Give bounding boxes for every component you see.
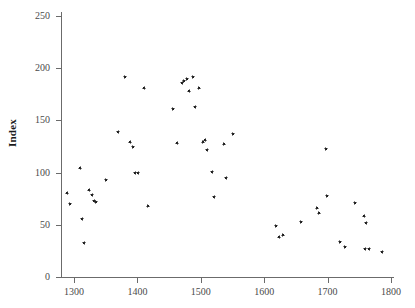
data-point [275, 225, 277, 227]
data-point [365, 222, 367, 224]
data-point [300, 221, 302, 223]
y-tick-mark [56, 173, 61, 174]
data-point [124, 76, 126, 78]
y-tick-mark [56, 68, 61, 69]
data-point [282, 234, 284, 236]
x-tick-label: 1300 [54, 287, 94, 297]
data-point [105, 179, 107, 181]
data-point [143, 87, 145, 89]
data-point [176, 142, 178, 144]
data-point [137, 172, 139, 174]
x-tick-mark [137, 278, 138, 283]
data-point [225, 177, 227, 179]
data-point [117, 131, 119, 133]
data-point [202, 141, 204, 143]
data-point [66, 192, 68, 194]
data-point [186, 78, 188, 80]
data-point [368, 248, 370, 250]
plot-area: 050100150200250 130014001500160017001800… [0, 0, 415, 308]
data-point [232, 133, 234, 135]
data-point [95, 201, 97, 203]
data-point [192, 76, 194, 78]
data-point [206, 149, 208, 151]
data-point [91, 194, 93, 196]
data-point [129, 141, 131, 143]
y-axis-title: Index [6, 103, 18, 163]
data-point [339, 241, 341, 243]
x-tick-label: 1400 [117, 287, 157, 297]
data-point [213, 196, 215, 198]
data-point [344, 246, 346, 248]
data-point [81, 218, 83, 220]
data-point [326, 195, 328, 197]
y-tick-label: 100 [18, 168, 50, 178]
y-tick-mark [56, 16, 61, 17]
data-point [194, 106, 196, 108]
y-tick-label: 250 [18, 11, 50, 21]
data-point [363, 215, 365, 217]
data-point [354, 202, 356, 204]
data-point [83, 242, 85, 244]
x-tick-label: 1700 [308, 287, 348, 297]
x-tick-label: 1800 [371, 287, 411, 297]
data-point [88, 189, 90, 191]
data-point [198, 87, 200, 89]
data-point [172, 108, 174, 110]
data-point [69, 203, 71, 205]
x-tick-label: 1500 [181, 287, 221, 297]
y-axis-line [61, 12, 62, 278]
x-tick-mark [264, 278, 265, 283]
data-point [79, 167, 81, 169]
data-point [325, 148, 327, 150]
x-tick-mark [74, 278, 75, 283]
y-tick-label: 0 [18, 272, 50, 282]
y-tick-label: 150 [18, 115, 50, 125]
data-point [211, 171, 213, 173]
y-tick-mark [56, 225, 61, 226]
y-tick-label: 50 [18, 220, 50, 230]
data-point [316, 207, 318, 209]
data-point [188, 90, 190, 92]
y-tick-label: 200 [18, 63, 50, 73]
y-tick-mark [56, 120, 61, 121]
x-tick-label: 1600 [244, 287, 284, 297]
data-point [223, 143, 225, 145]
data-point [318, 212, 320, 214]
x-tick-mark [328, 278, 329, 283]
data-point [132, 146, 134, 148]
y-tick-mark [56, 277, 61, 278]
data-point [381, 251, 383, 253]
data-point [204, 139, 206, 141]
data-point [278, 236, 280, 238]
x-axis-line [61, 277, 394, 278]
data-point [364, 248, 366, 250]
x-tick-mark [391, 278, 392, 283]
x-tick-mark [201, 278, 202, 283]
scatter-plot-figure: 050100150200250 130014001500160017001800… [0, 0, 415, 308]
data-point [183, 80, 185, 82]
data-point [147, 205, 149, 207]
